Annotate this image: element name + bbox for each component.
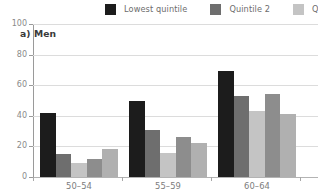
plot-area [33,24,318,177]
legend-swatch-quintile-3 [293,4,304,15]
bar [129,101,145,178]
chart-figure: Lowest quintileQuintile 2Qui a) Men 0204… [0,0,318,196]
legend-swatch-quintile-2 [210,4,221,15]
x-axis-tick-mark [300,177,301,181]
legend-item[interactable]: Quintile 2 [210,4,270,15]
chart-legend: Lowest quintileQuintile 2Qui [105,1,318,17]
legend-item-label: Lowest quintile [124,5,187,13]
legend-item-label: Quintile 2 [229,5,270,13]
x-axis-category-label: 55–59 [138,182,198,190]
bar [234,96,250,177]
x-axis-category-label: 50–54 [49,182,109,190]
x-axis-category-label: 60–64 [227,182,287,190]
legend-item[interactable]: Qui [293,4,318,15]
gridline [33,85,318,86]
y-axis-tick-label: 60 [1,81,27,89]
x-axis-tick-mark [33,177,34,181]
bar [265,94,281,177]
bar [87,159,103,177]
y-axis-tick-label: 80 [1,51,27,59]
legend-item-label: Qui [312,5,318,13]
bar [280,114,296,177]
bar [160,153,176,177]
legend-item[interactable]: Lowest quintile [105,4,187,15]
bar [218,71,234,177]
bar [191,143,207,177]
legend-swatch-lowest-quintile [105,4,116,15]
y-axis-tick-label: 0 [1,173,27,181]
y-axis-tick-label: 100 [1,20,27,28]
x-axis-tick-mark [211,177,212,181]
y-axis-labels: 020406080100 [0,0,27,196]
axis-baseline [33,177,318,178]
x-axis-tick-mark [122,177,123,181]
bar [249,111,265,177]
bar [145,130,161,177]
bar [102,149,118,177]
bar [71,163,87,177]
gridline [33,24,318,25]
bar [56,154,72,177]
bar [40,113,56,177]
gridline [33,55,318,56]
bar [176,137,192,177]
y-axis-tick-label: 20 [1,142,27,150]
y-axis-tick-label: 40 [1,112,27,120]
